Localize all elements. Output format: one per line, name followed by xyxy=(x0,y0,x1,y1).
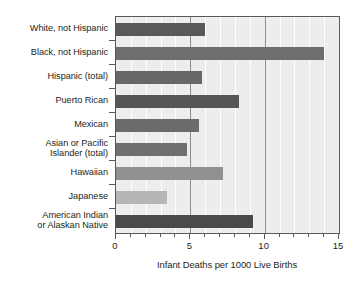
category-label: Mexican xyxy=(0,119,108,130)
value-tick-major xyxy=(115,233,116,239)
plot-area xyxy=(115,16,340,234)
bar xyxy=(116,95,239,108)
value-tick-minor xyxy=(249,233,250,237)
category-tick xyxy=(109,208,115,209)
category-tick xyxy=(109,112,115,113)
bar xyxy=(116,119,199,132)
category-label: White, not Hispanic xyxy=(0,23,108,34)
bar xyxy=(116,191,167,204)
category-label-line: or Alaskan Native xyxy=(0,220,108,231)
bar xyxy=(116,215,253,228)
category-tick xyxy=(109,184,115,185)
category-tick xyxy=(109,136,115,137)
value-tick-label: 10 xyxy=(258,240,269,251)
value-tick-label: 5 xyxy=(187,240,192,251)
category-label: Asian or PacificIslander (total) xyxy=(0,138,108,159)
category-label: Hispanic (total) xyxy=(0,71,108,82)
category-label: Hawaiian xyxy=(0,167,108,178)
category-label-line: Hispanic (total) xyxy=(0,71,108,82)
infant-mortality-bar-chart: White, not HispanicBlack, not HispanicHi… xyxy=(0,0,354,284)
value-tick-minor xyxy=(204,233,205,237)
value-tick-minor xyxy=(279,233,280,237)
category-axis-labels: White, not HispanicBlack, not HispanicHi… xyxy=(0,16,108,232)
category-label-line: Puerto Rican xyxy=(0,95,108,106)
category-label-line: Black, not Hispanic xyxy=(0,47,108,58)
category-label-line: Japanese xyxy=(0,191,108,202)
category-label-line: White, not Hispanic xyxy=(0,23,108,34)
value-axis-tick-marks xyxy=(115,233,339,239)
category-label-line: American Indian xyxy=(0,210,108,221)
category-tick xyxy=(109,88,115,89)
value-tick-major xyxy=(189,233,190,239)
gridline-minor xyxy=(324,17,325,233)
bar xyxy=(116,23,205,36)
category-tick xyxy=(109,64,115,65)
category-label-line: Hawaiian xyxy=(0,167,108,178)
value-tick-minor xyxy=(323,233,324,237)
value-tick-minor xyxy=(219,233,220,237)
value-tick-label: 15 xyxy=(333,240,344,251)
value-tick-minor xyxy=(130,233,131,237)
category-tick xyxy=(109,40,115,41)
value-axis-tick-labels: 051015 xyxy=(0,240,354,254)
bar xyxy=(116,47,324,60)
category-label: Puerto Rican xyxy=(0,95,108,106)
bar xyxy=(116,167,223,180)
value-tick-major xyxy=(338,233,339,239)
value-tick-minor xyxy=(174,233,175,237)
value-tick-minor xyxy=(308,233,309,237)
value-tick-label: 0 xyxy=(112,240,117,251)
category-label: Black, not Hispanic xyxy=(0,47,108,58)
value-tick-minor xyxy=(145,233,146,237)
category-tick xyxy=(109,160,115,161)
category-label: Japanese xyxy=(0,191,108,202)
value-tick-minor xyxy=(234,233,235,237)
value-tick-minor xyxy=(293,233,294,237)
bar xyxy=(116,71,202,84)
bar xyxy=(116,143,187,156)
x-axis-title: Infant Deaths per 1000 Live Births xyxy=(115,259,339,271)
category-label-line: Mexican xyxy=(0,119,108,130)
value-tick-major xyxy=(264,233,265,239)
category-label-line: Islander (total) xyxy=(0,148,108,159)
category-label-line: Asian or Pacific xyxy=(0,138,108,149)
value-tick-minor xyxy=(160,233,161,237)
category-label: American Indianor Alaskan Native xyxy=(0,210,108,231)
